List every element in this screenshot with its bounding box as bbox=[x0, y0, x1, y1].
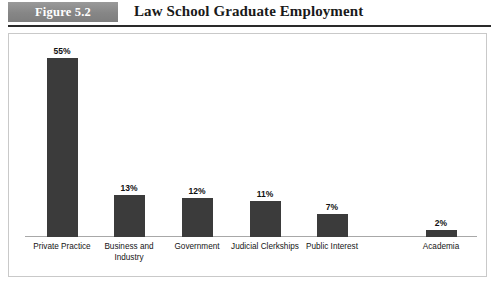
bar-value-label: 13% bbox=[120, 183, 137, 193]
x-axis-category-label: Business and Industry bbox=[90, 241, 168, 263]
bar-column: 12% bbox=[166, 186, 228, 237]
bar-column: 55% bbox=[31, 46, 93, 237]
x-axis-category-label: Academia bbox=[402, 241, 480, 252]
bar bbox=[47, 58, 78, 237]
figure-number-badge: Figure 5.2 bbox=[8, 2, 118, 22]
x-axis-category-label: Public Interest bbox=[293, 241, 371, 252]
bar-column: 13% bbox=[98, 183, 160, 237]
bar-value-label: 55% bbox=[53, 46, 70, 56]
bar bbox=[114, 195, 145, 237]
bar-column: 7% bbox=[301, 202, 363, 237]
bar-column: 2% bbox=[410, 218, 472, 237]
figure-header: Figure 5.2 Law School Graduate Employmen… bbox=[0, 0, 499, 27]
bar-value-label: 7% bbox=[326, 202, 338, 212]
figure-title: Law School Graduate Employment bbox=[134, 1, 363, 22]
bar-value-label: 2% bbox=[435, 218, 447, 228]
bar-column: 11% bbox=[234, 189, 296, 237]
figure-container: Figure 5.2 Law School Graduate Employmen… bbox=[0, 0, 499, 287]
bar bbox=[250, 201, 281, 237]
chart-frame: 55%Private Practice13%Business and Indus… bbox=[8, 33, 487, 277]
bar bbox=[182, 198, 213, 237]
bar-value-label: 11% bbox=[257, 189, 274, 199]
bar-value-label: 12% bbox=[188, 186, 205, 196]
x-axis-category-label: Government bbox=[158, 241, 236, 252]
bar bbox=[317, 214, 348, 237]
bar-chart-plot-area: 55%Private Practice13%Business and Indus… bbox=[9, 34, 488, 278]
bar bbox=[426, 230, 457, 237]
header-divider bbox=[8, 25, 491, 27]
